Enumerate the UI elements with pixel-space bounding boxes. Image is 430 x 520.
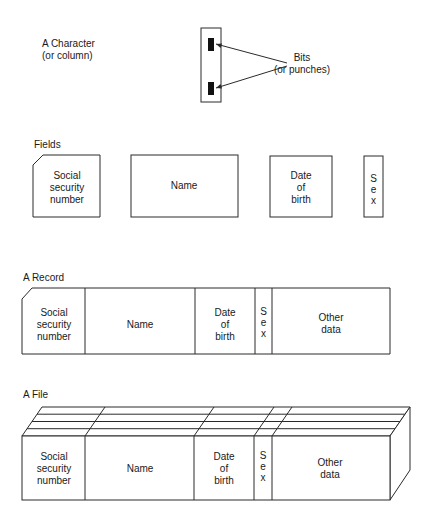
character-title: A Character	[42, 38, 95, 49]
file-ssn-text-1: Social	[40, 451, 67, 462]
data-hierarchy-diagram: A Character (or column) Bits (or punches…	[0, 0, 430, 520]
record-sex-text-2: e	[261, 317, 267, 328]
file-sex-text-1: S	[260, 450, 267, 461]
bits-sublabel: (or punches)	[274, 64, 330, 75]
field-sex-text-1: S	[370, 173, 377, 184]
file-other-text-2: data	[320, 469, 340, 480]
character-section: A Character (or column) Bits (or punches…	[42, 28, 330, 102]
field-dob-text-2: of	[297, 182, 306, 193]
record-ssn-text-1: Social	[40, 307, 67, 318]
file-dob-text-3: birth	[214, 475, 233, 486]
file-ssn-text-3: number	[37, 475, 72, 486]
record-sex-text-3: x	[261, 328, 266, 339]
file-front-face	[22, 436, 390, 500]
file-sex-text-3: x	[261, 472, 266, 483]
file-name-text: Name	[127, 463, 154, 474]
bits-label: Bits	[294, 52, 311, 63]
bit-top	[208, 38, 214, 51]
field-sex-text-3: x	[371, 195, 376, 206]
file-ssn-text-2: security	[37, 463, 71, 474]
field-ssn-text-2: security	[50, 182, 84, 193]
file-section: A File Social security number Name Date …	[22, 389, 410, 500]
bit-bottom	[208, 82, 214, 95]
record-sex-text-1: S	[260, 306, 267, 317]
field-sex-text-2: e	[371, 184, 377, 195]
fields-title: Fields	[34, 139, 61, 150]
file-sex-text-2: e	[260, 461, 266, 472]
file-dob-text-1: Date	[213, 451, 235, 462]
record-dob-text-2: of	[221, 319, 230, 330]
record-dob-text-3: birth	[215, 331, 234, 342]
field-dob-text-3: birth	[291, 194, 310, 205]
record-other-text-2: data	[321, 324, 341, 335]
record-title: A Record	[23, 272, 64, 283]
file-dob-text-2: of	[220, 463, 229, 474]
field-ssn-text-3: number	[50, 194, 85, 205]
record-dob-text-1: Date	[214, 307, 236, 318]
record-ssn-text-2: security	[37, 319, 71, 330]
field-dob-text-1: Date	[290, 170, 312, 181]
record-section: A Record Social security number Name Dat…	[22, 272, 390, 354]
record-name-text: Name	[127, 319, 154, 330]
record-ssn-text-3: number	[37, 331, 72, 342]
fields-section: Fields Social security number Name Date …	[33, 139, 383, 217]
character-subtitle: (or column)	[42, 50, 93, 61]
field-name-text: Name	[171, 180, 198, 191]
record-other-text-1: Other	[318, 312, 344, 323]
file-title: A File	[23, 389, 48, 400]
arrow-to-top-bit	[216, 44, 287, 63]
field-ssn-text-1: Social	[53, 170, 80, 181]
file-other-text-1: Other	[317, 457, 343, 468]
